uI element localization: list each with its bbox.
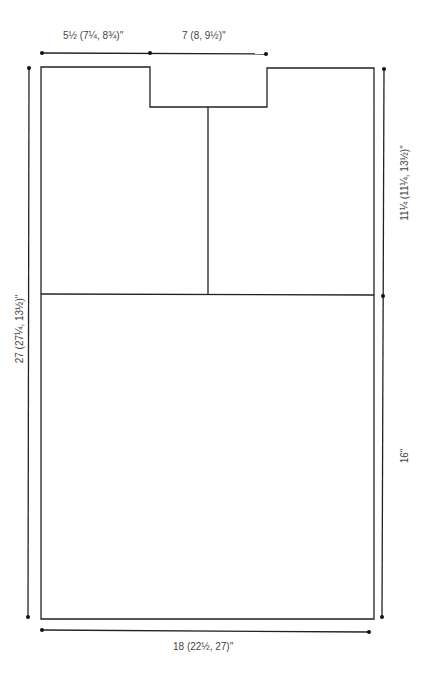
neck-width-label: 7 (8, 9½)": [182, 30, 226, 42]
horizontal-divider-line: [41, 294, 374, 295]
shoulder-width-label: 5½ (7¼, 8¾)": [63, 30, 123, 42]
right-dimension: [380, 67, 386, 619]
bottom-dimension: [40, 628, 371, 634]
schematic-drawing: [0, 0, 428, 684]
bottom-width-label: 18 (22½, 27)": [173, 641, 233, 653]
upper-length-label: 11¼ (11¼, 13½)": [399, 133, 411, 233]
lower-length-label: 16": [399, 436, 411, 476]
left-dimension: [26, 66, 31, 619]
top-dimension: [40, 51, 268, 56]
total-length-label: 27 (27¼, 13½)": [14, 279, 26, 379]
